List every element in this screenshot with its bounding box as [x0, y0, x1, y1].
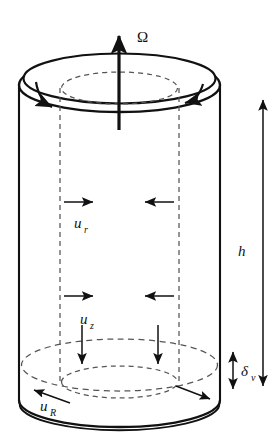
omega-label: Ω — [137, 29, 148, 45]
cylinder-body — [19, 85, 220, 430]
rim-velocity-arrows — [34, 386, 210, 403]
inner-core-bottom-back-arc — [62, 366, 178, 382]
rim-velocity-label-group: u R — [40, 398, 56, 418]
diagram-canvas: Ω h δ v u r u z u R — [0, 0, 276, 442]
cylinder-base-rim-left-cap — [19, 400, 20, 407]
u-z-label-subscript: z — [89, 320, 94, 331]
rim-arrow-right — [176, 386, 210, 399]
u-r-label-base: u — [74, 215, 82, 231]
height-label: h — [238, 243, 246, 259]
delta-label-subscript: v — [251, 372, 256, 383]
boundary-layer-top-ellipse — [22, 339, 218, 391]
u-R-label-subscript: R — [49, 407, 56, 418]
inner-core-bottom-front-arc — [62, 382, 178, 398]
u-R-label-base: u — [40, 398, 48, 414]
rotating-cylinder-diagram: Ω h δ v u r u z u R — [0, 0, 276, 442]
cylinder-base-rim-right-cap — [219, 400, 220, 407]
u-z-label-base: u — [80, 311, 88, 327]
delta-label-group: δ v — [241, 363, 256, 383]
delta-label-base: δ — [241, 363, 249, 379]
radial-velocity-label-group: u r — [74, 215, 88, 235]
u-r-label-subscript: r — [84, 224, 88, 235]
